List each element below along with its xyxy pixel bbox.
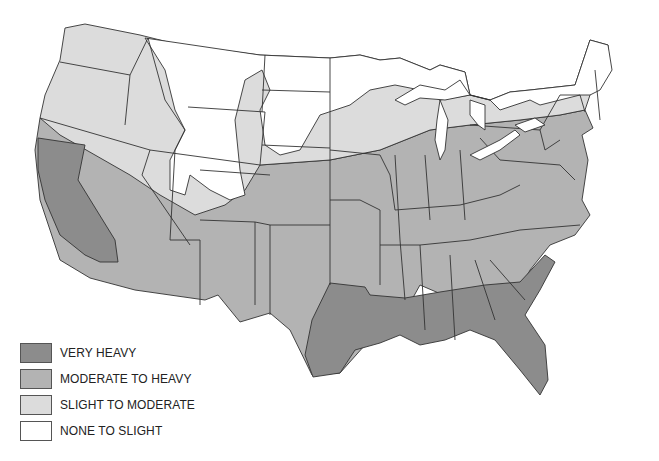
legend-swatch-slight-to-moderate	[20, 395, 52, 415]
legend-label: VERY HEAVY	[60, 346, 136, 360]
legend-label: SLIGHT TO MODERATE	[60, 398, 195, 412]
legend-label: NONE TO SLIGHT	[60, 424, 162, 438]
legend-item-none-to-slight: NONE TO SLIGHT	[20, 418, 195, 444]
legend-swatch-very-heavy	[20, 343, 52, 363]
legend-item-very-heavy: VERY HEAVY	[20, 340, 195, 366]
legend-swatch-none-to-slight	[20, 421, 52, 441]
legend-item-slight-to-moderate: SLIGHT TO MODERATE	[20, 392, 195, 418]
legend-item-moderate-to-heavy: MODERATE TO HEAVY	[20, 366, 195, 392]
map-legend: VERY HEAVY MODERATE TO HEAVY SLIGHT TO M…	[20, 340, 195, 444]
legend-label: MODERATE TO HEAVY	[60, 372, 192, 386]
legend-swatch-moderate-to-heavy	[20, 369, 52, 389]
